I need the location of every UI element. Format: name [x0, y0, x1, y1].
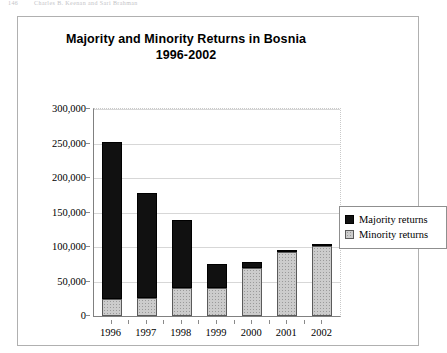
y-axis-tick-mark: [86, 143, 90, 144]
bar-segment-minority[interactable]: [277, 252, 297, 316]
x-axis-tick-label: 1997: [126, 327, 166, 338]
x-axis-tick-label: 1999: [196, 327, 236, 338]
x-axis-tick-label: 1998: [161, 327, 201, 338]
bar-group[interactable]: [172, 109, 192, 316]
y-axis-tick-label: 300,000: [30, 103, 86, 114]
bar-group[interactable]: [242, 109, 262, 316]
x-axis-boundary-tick: [304, 320, 305, 324]
bar-group[interactable]: [137, 109, 157, 316]
legend-item[interactable]: Minority returns: [345, 227, 440, 242]
x-axis-tick-mark: [251, 320, 252, 324]
bar-group[interactable]: [207, 109, 227, 316]
x-axis-tick-mark: [321, 320, 322, 324]
bar-segment-majority[interactable]: [172, 220, 192, 288]
y-axis-tick-label: 200,000: [30, 172, 86, 183]
x-axis-boundary-tick: [128, 320, 129, 324]
bar-group[interactable]: [312, 109, 332, 316]
legend-item-label: Majority returns: [359, 214, 428, 226]
y-axis-tick-mark: [86, 246, 90, 247]
x-axis-boundary-tick: [163, 320, 164, 324]
bar-segment-majority[interactable]: [137, 193, 157, 298]
chart-title-line2: 1996-2002: [36, 47, 336, 63]
plot-area: [93, 108, 341, 317]
legend-swatch-minority-icon: [345, 230, 354, 239]
y-axis-tick-label: 0: [30, 310, 86, 321]
y-axis-tick-label: 100,000: [30, 241, 86, 252]
chart-title: Majority and Minority Returns in Bosnia …: [36, 31, 336, 63]
bar-group[interactable]: [277, 109, 297, 316]
legend-item[interactable]: Majority returns: [345, 212, 440, 227]
x-axis-boundary-tick: [198, 320, 199, 324]
x-axis-tick-mark: [181, 320, 182, 324]
y-axis: 050,000100,000150,000200,000250,000300,0…: [26, 108, 86, 315]
bar-segment-minority[interactable]: [312, 246, 332, 316]
legend-swatch-majority-icon: [345, 215, 354, 224]
y-axis-tick-label: 250,000: [30, 137, 86, 148]
page-running-head-text: Charles B. Keenan and Sari Brahman: [34, 0, 138, 6]
bar-segment-minority[interactable]: [207, 288, 227, 316]
x-axis-tick-mark: [111, 320, 112, 324]
bar-segment-minority[interactable]: [137, 298, 157, 316]
y-axis-tick-label: 150,000: [30, 206, 86, 217]
bar-segment-majority[interactable]: [242, 262, 262, 268]
y-axis-tick-mark: [86, 212, 90, 213]
y-axis-tick-mark: [86, 177, 90, 178]
bar-group[interactable]: [102, 109, 122, 316]
page-folio-number: 146: [8, 0, 18, 6]
bar-segment-minority[interactable]: [242, 268, 262, 316]
page-running-head: 146 Charles B. Keenan and Sari Brahman: [8, 0, 138, 6]
bar-segment-majority[interactable]: [312, 244, 332, 247]
x-axis-boundary-tick: [269, 320, 270, 324]
chart-legend: Majority returnsMinority returns: [339, 206, 447, 249]
chart-container: Majority and Minority Returns in Bosnia …: [17, 16, 419, 346]
bar-segment-minority[interactable]: [102, 299, 122, 316]
legend-item-label: Minority returns: [359, 229, 428, 241]
x-axis-tick-label: 2002: [301, 327, 341, 338]
x-axis: 1996199719981999200020012002: [93, 320, 339, 338]
x-axis-tick-label: 2000: [231, 327, 271, 338]
x-axis-tick-mark: [146, 320, 147, 324]
y-axis-tick-mark: [86, 315, 90, 316]
bar-segment-minority[interactable]: [172, 288, 192, 316]
bar-segment-majority[interactable]: [277, 250, 297, 252]
y-axis-tick-mark: [86, 281, 90, 282]
y-axis-tick-mark: [86, 108, 90, 109]
chart-title-line1: Majority and Minority Returns in Bosnia: [66, 32, 306, 46]
bar-segment-majority[interactable]: [207, 264, 227, 287]
x-axis-tick-mark: [286, 320, 287, 324]
x-axis-tick-label: 1996: [91, 327, 131, 338]
y-axis-tick-label: 50,000: [30, 275, 86, 286]
bar-segment-majority[interactable]: [102, 142, 122, 299]
x-axis-boundary-tick: [234, 320, 235, 324]
x-axis-tick-mark: [216, 320, 217, 324]
x-axis-tick-label: 2001: [266, 327, 306, 338]
